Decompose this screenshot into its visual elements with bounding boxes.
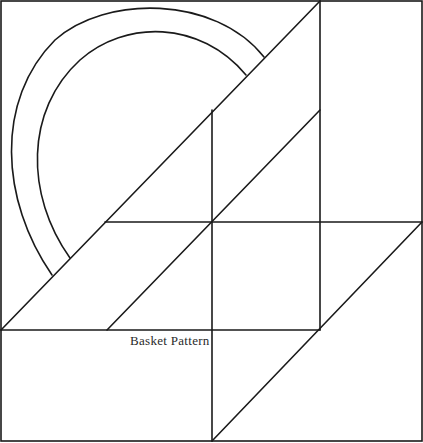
handle-outer-arc [11,8,264,275]
pattern-shapes [1,1,422,441]
diagonal-basket-inner [107,110,320,330]
basket-pattern-diagram [0,0,423,443]
diagonal-basket-right [212,222,422,441]
diagram-title-label: Basket Pattern [130,333,210,349]
diagonal-basket-left [1,1,320,330]
handle-inner-arc [37,32,246,258]
